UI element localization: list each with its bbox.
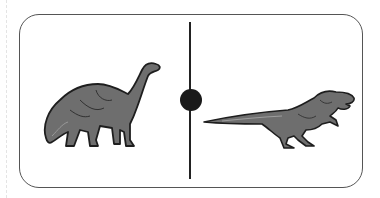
- page-margin-guide: [6, 0, 7, 198]
- sauropod-dinosaur-icon: [40, 60, 162, 155]
- center-dot-marker: [180, 89, 202, 111]
- theropod-dinosaur-icon: [202, 88, 358, 152]
